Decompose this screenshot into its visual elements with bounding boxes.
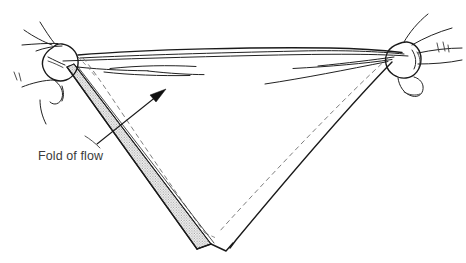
left-thumb-crease [48, 57, 65, 65]
left-motion-tick-1 [14, 72, 17, 80]
right-finger-line-3 [418, 48, 462, 53]
right-thumb-crease [404, 92, 420, 95]
left-lower-finger-2 [50, 80, 63, 104]
right-finger-line-2 [412, 28, 452, 45]
draped-cloth [74, 56, 398, 250]
left-motion-tick-2 [19, 73, 21, 81]
left-finger-line-4 [24, 30, 52, 45]
right-finger-line-1 [404, 14, 428, 42]
left-hand [14, 22, 78, 124]
left-finger-line-2 [22, 43, 58, 45]
right-motion-tick-2 [443, 42, 445, 51]
figure-container: Fold of flow [0, 0, 466, 263]
right-finger-line-4 [418, 60, 462, 64]
right-fist-crease-2 [417, 52, 420, 67]
fold-of-flow-leader-line [85, 136, 100, 148]
fold-of-flow-illustration: Fold of flow [0, 0, 466, 263]
left-lower-finger-1 [22, 80, 54, 87]
cloth-surface [74, 56, 398, 250]
right-fist-crease [412, 50, 416, 69]
left-thumb-crease-2 [48, 61, 63, 68]
right-motion-tick-3 [448, 45, 449, 52]
left-wrist-line [40, 100, 46, 124]
fold-of-flow-leader [85, 136, 100, 148]
right-motion-tick-1 [437, 43, 439, 52]
fold-of-flow-label: Fold of flow [38, 149, 104, 163]
right-thumb [398, 77, 423, 96]
